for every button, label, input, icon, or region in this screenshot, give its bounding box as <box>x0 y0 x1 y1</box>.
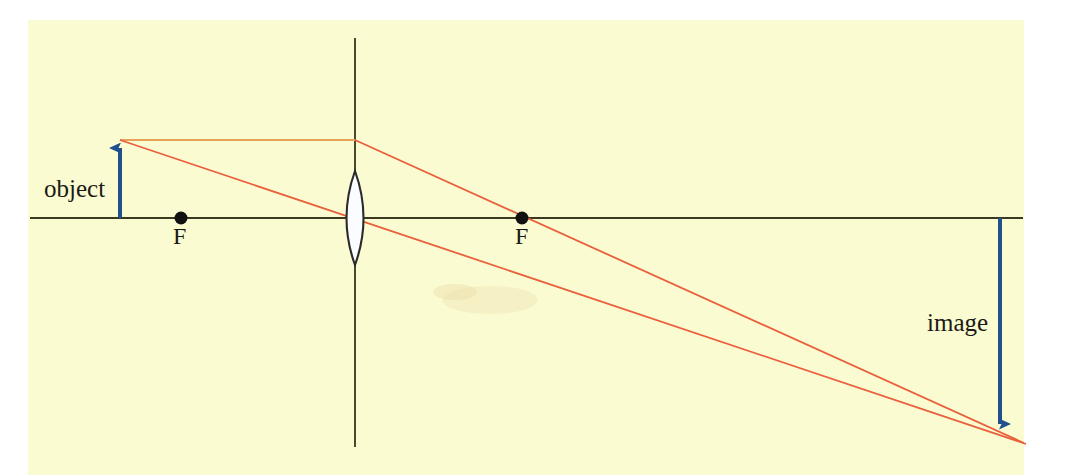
paper-smudge-secondary <box>433 284 477 300</box>
focal-point-right-label: F <box>515 224 528 248</box>
object-label: object <box>44 176 105 201</box>
converging-lens <box>347 171 364 265</box>
focal-point-left-label: F <box>173 224 186 248</box>
optics-diagram <box>0 0 1069 475</box>
image-label: image <box>927 310 988 335</box>
diagram-canvas: object image F F <box>0 0 1069 475</box>
ray-through-center <box>120 140 1026 444</box>
